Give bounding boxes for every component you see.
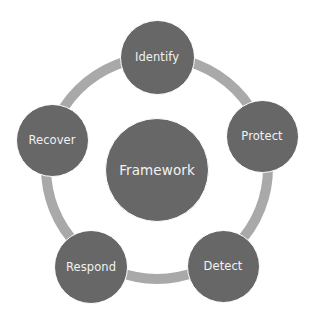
node-label: Protect [241, 129, 282, 143]
center-node-framework: Framework [105, 118, 209, 222]
node-recover: Recover [16, 104, 89, 177]
node-respond: Respond [54, 230, 128, 304]
node-label: Respond [66, 260, 116, 274]
node-protect: Protect [226, 100, 299, 173]
node-label: Identify [135, 50, 179, 64]
node-identify: Identify [120, 20, 195, 95]
node-detect: Detect [187, 230, 260, 303]
node-label: Detect [204, 259, 243, 273]
node-label: Recover [28, 133, 75, 147]
center-label: Framework [119, 162, 195, 178]
